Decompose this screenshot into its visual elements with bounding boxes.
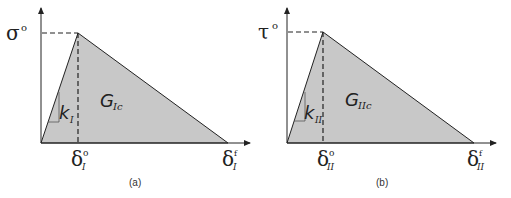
bilinear-law-area: [41, 33, 228, 143]
x-label-final-sup: f: [234, 149, 238, 158]
x-label-onset-sub: I: [81, 162, 86, 172]
panel-b: τ o k II G IIc δ o II δ f II (b): [258, 8, 496, 188]
y-label-sup: o: [21, 22, 27, 33]
x-label-onset-sup: o: [329, 148, 334, 158]
area-label: G: [100, 90, 114, 111]
area-sub: IIc: [357, 100, 372, 111]
caption-b: (b): [376, 177, 388, 188]
bilinear-law-area: [287, 32, 474, 143]
x-label-final-sup: f: [479, 149, 483, 158]
area-sub: Ic: [112, 101, 123, 112]
stiffness-sub: II: [314, 115, 323, 125]
traction-separation-diagrams: σ o k I G Ic δ o I δ f I (a) τ o k II G …: [0, 0, 511, 198]
caption-a: (a): [129, 177, 141, 188]
panel-a: σ o k I G Ic δ o I δ f I (a): [6, 8, 250, 188]
area-label: G: [345, 89, 359, 110]
x-label-onset-sup: o: [83, 148, 88, 158]
y-label-tau: τ: [258, 20, 269, 44]
stiffness-sub: I: [69, 115, 74, 125]
y-label-sup: o: [272, 20, 278, 31]
x-label-final-sub: I: [232, 162, 237, 172]
x-label-onset-sub: II: [326, 162, 335, 172]
y-label-sigma: σ: [6, 21, 20, 45]
x-label-final-sub: II: [476, 162, 485, 172]
